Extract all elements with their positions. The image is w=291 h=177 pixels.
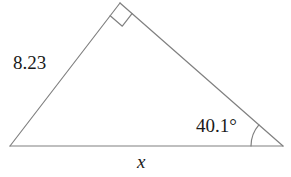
triangle-drawing [0,0,291,177]
right-angle-marker [110,14,132,27]
angle-measure-label: 40.1° [196,116,237,135]
side-length-label-left: 8.23 [13,53,46,72]
side-length-label-base: x [137,152,145,171]
triangle-side-left [10,3,120,146]
geometry-figure: 8.23 x 40.1° [0,0,291,177]
angle-arc-marker [251,125,259,146]
